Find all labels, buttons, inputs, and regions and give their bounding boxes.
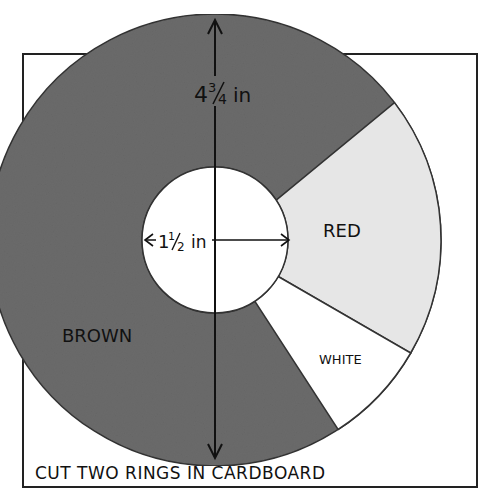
outer-dimension-label: 4 3 4 in xyxy=(192,76,258,107)
caption: CUT TWO RINGS IN CARDBOARD xyxy=(35,463,326,483)
svg-text:4: 4 xyxy=(194,82,208,107)
svg-text:2: 2 xyxy=(177,240,185,254)
inner-dimension-label: 1 1 2 in xyxy=(156,228,212,254)
svg-text:4: 4 xyxy=(218,91,227,107)
label-white: WHITE xyxy=(319,352,362,367)
svg-text:in: in xyxy=(191,232,207,252)
label-brown: BROWN xyxy=(62,325,132,346)
label-red: RED xyxy=(323,220,361,241)
svg-text:1: 1 xyxy=(168,230,175,243)
svg-text:3: 3 xyxy=(208,80,216,95)
svg-text:in: in xyxy=(233,83,251,107)
ring-diagram: 4 3 4 in 1 1 2 in RED WHITE BROWN CUT TW… xyxy=(0,0,484,503)
